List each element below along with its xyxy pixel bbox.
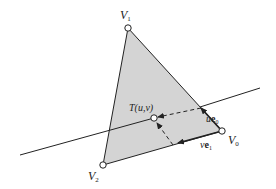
label-ve1: ve1: [200, 139, 212, 151]
label-v0: V0: [228, 133, 239, 148]
point-t-marker: [151, 115, 157, 121]
label-v2: V2: [88, 169, 99, 184]
label-t-uv: T(u,v): [129, 102, 154, 114]
vertex-v0-marker: [219, 128, 225, 134]
label-ue0: ue0: [206, 113, 218, 125]
vertex-v2-marker: [100, 162, 106, 168]
label-v1: V1: [120, 8, 131, 23]
vertex-v1-marker: [125, 25, 131, 31]
diagram-canvas: V1 V0 V2 T(u,v) ue0 ve1: [0, 0, 276, 189]
ray-line-exit: [200, 88, 260, 107]
